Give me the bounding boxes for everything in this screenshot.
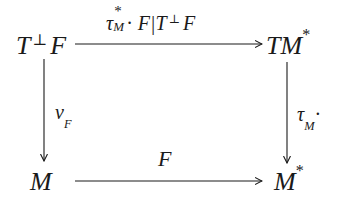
node-bottom-left-base: M	[30, 167, 52, 196]
node-top-left-tail: F	[50, 31, 66, 60]
bottom-arrow-label: F	[158, 148, 171, 170]
top-label-f: F	[183, 12, 195, 34]
left-label-base: v	[55, 101, 64, 123]
right-label-sub: M	[304, 119, 314, 133]
tau-sub-m: M	[113, 20, 124, 33]
dot-symbol: ·	[126, 12, 133, 34]
node-top-right-star: *	[302, 26, 310, 43]
node-bottom-right-base: M	[274, 167, 296, 196]
top-label-perp: ⊥	[169, 12, 180, 26]
left-label-sub: F	[64, 117, 72, 131]
right-label-dot: ·	[315, 103, 322, 125]
left-arrow-label: vF	[55, 102, 71, 122]
right-arrow-label: τM·	[297, 104, 321, 124]
top-arrow-label: τ*M· F|T⊥F	[106, 10, 195, 33]
node-bottom-right: M*	[274, 169, 304, 195]
tau-star: *	[114, 4, 122, 19]
top-label-restrict: F|T	[133, 12, 167, 34]
node-bottom-right-star: *	[296, 162, 304, 179]
node-top-left: T⊥F	[16, 33, 66, 59]
node-top-left-base: T	[16, 31, 30, 60]
perp-symbol: ⊥	[32, 31, 47, 48]
node-top-right: TM*	[266, 33, 310, 59]
bottom-label-base: F	[158, 146, 171, 171]
node-bottom-left: M	[30, 169, 52, 195]
node-top-right-base: TM	[266, 31, 302, 60]
